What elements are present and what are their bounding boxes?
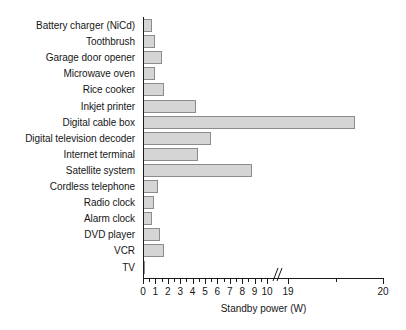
x-tick (267, 279, 268, 284)
axis-break-icon (270, 268, 286, 282)
category-label: Garage door opener (46, 52, 135, 63)
bar (143, 132, 211, 145)
bar (143, 67, 155, 80)
x-tick-label: 3 (177, 286, 183, 297)
bar (143, 180, 158, 193)
x-tick (242, 279, 243, 284)
x-tick (248, 279, 249, 282)
x-tick-label: 1 (153, 286, 159, 297)
x-tick (255, 279, 256, 284)
category-axis-labels: Battery charger (NiCd)ToothbrushGarage d… (0, 18, 139, 276)
category-label: Battery charger (NiCd) (36, 20, 135, 31)
bar (143, 244, 164, 257)
x-tick (174, 279, 175, 282)
category-label: Internet terminal (64, 149, 135, 160)
x-tick-label: 8 (239, 286, 245, 297)
x-tick (336, 279, 337, 282)
category-label: Cordless telephone (50, 181, 135, 192)
category-label: Microwave oven (63, 68, 135, 79)
bar (143, 228, 160, 241)
plot-area (143, 18, 384, 276)
bar (143, 116, 355, 129)
x-tick (168, 279, 169, 284)
bar (143, 164, 252, 177)
category-label: Toothbrush (86, 36, 135, 47)
x-tick (205, 279, 206, 284)
x-axis-line (143, 278, 384, 279)
category-label: TV (122, 262, 135, 273)
bar (143, 35, 155, 48)
x-axis-title: Standby power (W) (143, 303, 384, 315)
x-tick (149, 279, 150, 282)
x-tick (261, 279, 262, 282)
x-tick-label: 4 (190, 286, 196, 297)
category-label: Satellite system (66, 165, 135, 176)
category-label: Alarm clock (84, 213, 135, 224)
x-tick (193, 279, 194, 284)
bar (143, 196, 154, 209)
x-tick (230, 279, 231, 284)
x-tick (224, 279, 225, 282)
bar (143, 148, 198, 161)
bar (143, 83, 164, 96)
bar (143, 212, 152, 225)
bar (143, 51, 162, 64)
x-tick-label: 6 (215, 286, 221, 297)
x-tick (288, 279, 289, 284)
category-label: Radio clock (84, 197, 135, 208)
x-tick (155, 279, 156, 284)
x-tick-label: 0 (140, 286, 146, 297)
bar (143, 100, 196, 113)
category-label: Inkjet printer (81, 101, 135, 112)
bar (143, 19, 152, 32)
x-tick (217, 279, 218, 284)
x-tick-label: 9 (252, 286, 258, 297)
x-tick (162, 279, 163, 282)
category-label: Digital cable box (62, 117, 135, 128)
x-tick (236, 279, 237, 282)
x-tick-label: 19 (282, 286, 293, 297)
x-tick (211, 279, 212, 282)
x-tick-label: 5 (202, 286, 208, 297)
x-tick (383, 279, 384, 284)
x-tick (143, 279, 144, 284)
x-tick-label: 2 (165, 286, 171, 297)
x-tick-label: 20 (377, 286, 388, 297)
x-tick-label: 10 (261, 286, 272, 297)
x-tick (180, 279, 181, 284)
category-label: DVD player (84, 229, 135, 240)
x-tick (186, 279, 187, 282)
x-tick (199, 279, 200, 282)
x-tick-label: 7 (227, 286, 233, 297)
category-label: Rice cooker (83, 84, 135, 95)
category-label: VCR (114, 245, 135, 256)
y-axis-line (143, 17, 144, 279)
standby-power-bar-chart: Battery charger (NiCd)ToothbrushGarage d… (0, 0, 406, 330)
category-label: Digital television decoder (25, 133, 135, 144)
